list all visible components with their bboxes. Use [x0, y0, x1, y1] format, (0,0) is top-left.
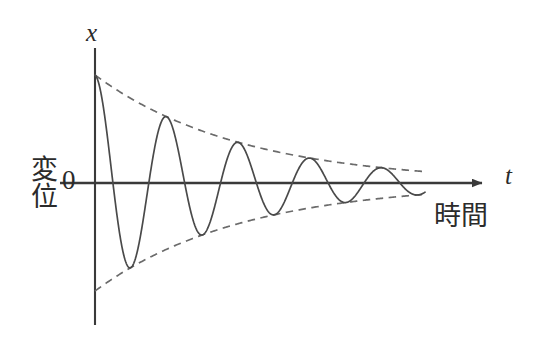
- plot-canvas: [0, 0, 548, 346]
- upper-envelope-curve: [95, 75, 425, 172]
- y-axis-symbol-label: x: [86, 20, 97, 45]
- y-axis-name-label: 変位: [26, 155, 56, 209]
- damped-oscillation-curve: [95, 75, 425, 268]
- origin-label: 0: [62, 167, 76, 194]
- damped-oscillation-figure: x t 0 変位 時間: [0, 0, 548, 346]
- x-axis-symbol-label: t: [505, 163, 512, 188]
- x-axis-name-label: 時間: [434, 202, 488, 230]
